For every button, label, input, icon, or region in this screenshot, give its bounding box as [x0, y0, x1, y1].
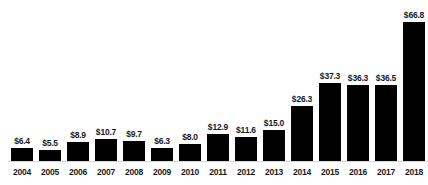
bar-group: $36.3 — [344, 0, 372, 161]
x-axis-tick-label: 2007 — [97, 167, 115, 178]
x-axis-tick-label: 2012 — [237, 167, 255, 178]
bar — [403, 22, 425, 161]
x-axis-tick-label: 2015 — [321, 167, 339, 178]
x-axis-tick-label: 2014 — [293, 167, 311, 178]
bar — [263, 130, 285, 161]
bar-value-label: $15.0 — [264, 118, 284, 128]
bar — [291, 106, 313, 161]
bar-value-label: $12.9 — [208, 122, 228, 132]
bar-value-label: $66.8 — [404, 10, 424, 20]
bar-group: $12.9 — [204, 0, 232, 161]
bar-group: $66.8 — [400, 0, 428, 161]
bar-group: $10.7 — [92, 0, 120, 161]
bar-value-label: $8.9 — [70, 130, 86, 140]
bar — [207, 134, 229, 161]
bar — [375, 85, 397, 161]
bar — [11, 148, 33, 161]
bar — [123, 141, 145, 161]
bar-value-label: $26.3 — [292, 94, 312, 104]
bar-group: $11.6 — [232, 0, 260, 161]
bar-value-label: $37.3 — [320, 71, 340, 81]
x-axis-tick-label: 2009 — [153, 167, 171, 178]
x-axis-tick-label: 2016 — [349, 167, 367, 178]
bar — [95, 139, 117, 161]
bar — [67, 142, 89, 161]
x-axis-tick-label: 2008 — [125, 167, 143, 178]
bar-value-label: $5.5 — [42, 138, 58, 148]
bar-group: $6.3 — [148, 0, 176, 161]
x-axis-tick-label: 2017 — [377, 167, 395, 178]
x-axis-tick-label: 2013 — [265, 167, 283, 178]
bar-group: $8.9 — [64, 0, 92, 161]
x-axis: 2004200520062007200820092010201120122013… — [8, 161, 428, 185]
bar-value-label: $6.3 — [154, 136, 170, 146]
bar-chart: $6.4$5.5$8.9$10.7$9.7$6.3$8.0$12.9$11.6$… — [0, 0, 428, 185]
bar-group: $26.3 — [288, 0, 316, 161]
x-axis-tick-label: 2004 — [13, 167, 31, 178]
bar — [347, 85, 369, 161]
bar-group: $15.0 — [260, 0, 288, 161]
bar-group: $37.3 — [316, 0, 344, 161]
bar — [151, 148, 173, 161]
bar-value-label: $10.7 — [96, 127, 116, 137]
bar — [179, 144, 201, 161]
bar — [39, 150, 61, 161]
x-axis-tick-label: 2018 — [405, 167, 423, 178]
x-axis-tick-label: 2006 — [69, 167, 87, 178]
bar-group: $6.4 — [8, 0, 36, 161]
bar-group: $9.7 — [120, 0, 148, 161]
bar-value-label: $6.4 — [14, 136, 30, 146]
plot-area: $6.4$5.5$8.9$10.7$9.7$6.3$8.0$12.9$11.6$… — [8, 0, 428, 161]
bar-value-label: $9.7 — [126, 129, 142, 139]
x-axis-tick-label: 2011 — [209, 167, 227, 178]
bar-group: $8.0 — [176, 0, 204, 161]
bar-value-label: $11.6 — [236, 125, 256, 135]
bar — [235, 137, 257, 161]
bar-value-label: $8.0 — [182, 132, 198, 142]
axis-baseline — [8, 161, 428, 162]
x-axis-tick-label: 2010 — [181, 167, 199, 178]
bar-value-label: $36.5 — [376, 73, 396, 83]
bar-group: $5.5 — [36, 0, 64, 161]
x-axis-tick-label: 2005 — [41, 167, 59, 178]
bar-group: $36.5 — [372, 0, 400, 161]
bar-value-label: $36.3 — [348, 73, 368, 83]
bar — [319, 83, 341, 161]
